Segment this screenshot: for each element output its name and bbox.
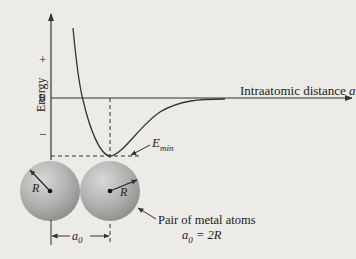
- x-axis-label: Intraatomic distance a: [240, 84, 356, 97]
- emin-label: Emin: [152, 136, 173, 153]
- a0-sub: 0: [78, 235, 83, 245]
- pair-pointer: [138, 208, 156, 219]
- energy-curve: [73, 28, 225, 156]
- x-axis-label-text: Intraatomic distance: [240, 83, 349, 98]
- relation-label: a0 = 2R: [182, 229, 221, 245]
- plus-label: +: [39, 53, 46, 66]
- zero-label: 0: [39, 91, 46, 104]
- radius-label-right: R: [120, 186, 127, 198]
- minus-label: −: [39, 128, 46, 141]
- radius-label-left: R: [32, 182, 39, 194]
- emin-sub: min: [160, 143, 174, 153]
- a0-label: a0: [72, 230, 83, 245]
- relation-rest: = 2R: [193, 228, 222, 242]
- pair-caption: Pair of metal atoms: [158, 214, 256, 227]
- emin-main: E: [152, 135, 160, 150]
- emin-pointer: [131, 145, 150, 155]
- x-axis-label-var: a: [349, 83, 356, 98]
